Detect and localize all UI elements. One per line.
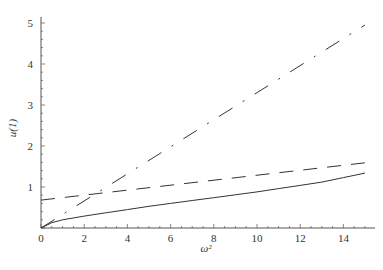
x-tick-label: 14 xyxy=(338,232,350,244)
x-tick-label: 0 xyxy=(38,232,44,244)
y-axis-label: u(1) xyxy=(6,119,19,138)
x-tick-label: 2 xyxy=(81,232,87,244)
x-tick-label: 4 xyxy=(125,232,131,244)
x-tick-label: 10 xyxy=(252,232,264,244)
series-dash-dot xyxy=(41,25,365,228)
y-tick-label: 3 xyxy=(28,99,34,111)
y-tick-label: 4 xyxy=(28,58,34,70)
y-tick-label: 5 xyxy=(28,17,34,29)
x-tick-label: 6 xyxy=(168,232,174,244)
series-dashed xyxy=(41,163,365,200)
line-chart: 0246810121412345 ω² u(1) xyxy=(0,0,383,270)
x-tick-label: 12 xyxy=(295,232,306,244)
y-tick-label: 2 xyxy=(28,140,34,152)
x-axis-label: ω² xyxy=(200,242,212,254)
y-tick-label: 1 xyxy=(28,181,34,193)
series-solid xyxy=(41,173,365,228)
x-tick-label: 8 xyxy=(211,232,217,244)
axes: 0246810121412345 xyxy=(28,17,376,244)
data-series xyxy=(41,25,365,228)
